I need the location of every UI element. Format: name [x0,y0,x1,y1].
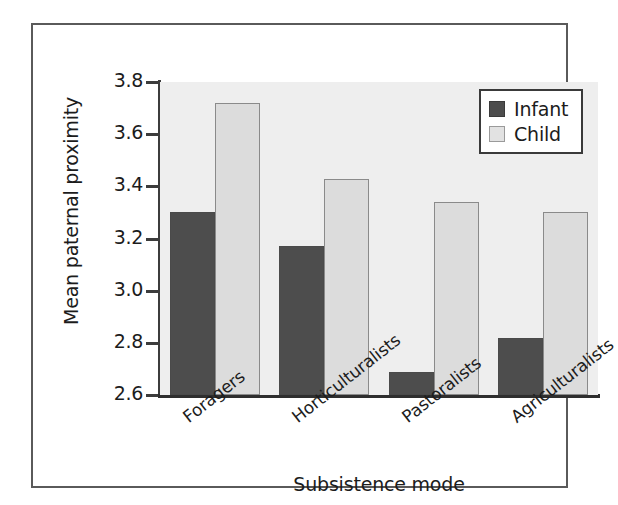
x-axis-title: Subsistence mode [160,473,598,495]
legend-swatch-child-icon [489,126,505,142]
legend-label-child: Child [514,123,561,145]
legend: Infant Child [479,89,583,154]
y-tick-label: 3.2 [91,226,143,248]
y-tick-label-wrap: 2.6 [81,382,143,404]
y-axis-title: Mean paternal proximity [60,81,82,341]
legend-label-infant: Infant [514,98,568,120]
legend-item-child[interactable]: Child [489,121,568,146]
y-tick-label: 2.6 [91,382,143,404]
y-tick-label-wrap: 3.8 [81,69,143,91]
y-tick-label: 3.8 [91,69,143,91]
legend-item-infant[interactable]: Infant [489,96,568,121]
bar-foragers-infant[interactable] [170,212,215,395]
bar-horticulturalists-infant[interactable] [279,246,324,395]
y-tick-label-wrap: 3.6 [81,121,143,143]
y-tick-label-wrap: 3.2 [81,226,143,248]
bar-foragers-child[interactable] [215,103,260,395]
y-tick-label: 3.4 [91,173,143,195]
y-tick-label: 3.6 [91,121,143,143]
y-tick-label-wrap: 2.8 [81,330,143,352]
legend-swatch-infant-icon [489,101,505,117]
y-tick-label: 3.0 [91,278,143,300]
y-tick-label-wrap: 3.0 [81,278,143,300]
y-tick-label: 2.8 [91,330,143,352]
y-tick-label-wrap: 3.4 [81,173,143,195]
chart-frame: Mean paternal proximity 2.62.83.03.23.43… [31,23,568,488]
